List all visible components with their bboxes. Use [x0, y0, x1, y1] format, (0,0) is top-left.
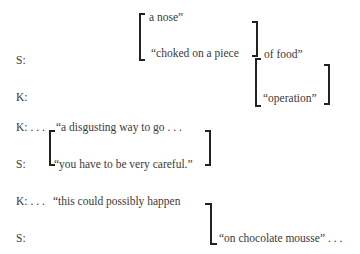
- speaker-k-label: K:: [16, 90, 28, 104]
- speaker-s-label: S:: [16, 53, 26, 67]
- continuation-bracket-left: [255, 58, 261, 107]
- line-happen: “this could possibly happen: [53, 194, 180, 208]
- line-disgusting: “a disgusting way to go . . .: [56, 120, 182, 134]
- overlap-text-choked: “choked on a piece: [151, 46, 239, 60]
- line-careful: “you have to be very careful.”: [54, 157, 193, 171]
- speaker-k-label: K: . . .: [16, 120, 45, 134]
- speaker-s-label: S:: [16, 157, 26, 171]
- speaker-s-label: S:: [16, 231, 26, 245]
- latching-bracket-lower: [210, 203, 217, 245]
- continuation-text-operation: “operation”: [263, 91, 317, 105]
- overlap-bracket-right: [252, 21, 258, 57]
- speaker-k-label: K: . . .: [16, 194, 45, 208]
- line-mousse: “on chocolate mousse” . . .: [219, 231, 342, 245]
- continuation-text-food: of food”: [264, 47, 303, 61]
- continuation-bracket-right: [324, 64, 330, 105]
- overlap-bracket-left: [139, 13, 145, 61]
- overlap-text-nose: a nose”: [149, 10, 183, 24]
- overlap-bracket-right: [205, 130, 211, 166]
